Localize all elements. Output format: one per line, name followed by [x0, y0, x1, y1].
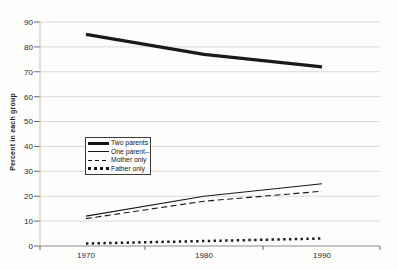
legend-swatch-dashed-line: [88, 160, 109, 161]
plot-area: [0, 0, 398, 270]
y-tick-label-90: 90: [8, 18, 33, 27]
y-tick-label-70: 70: [8, 68, 33, 77]
y-tick-label-80: 80: [8, 43, 33, 52]
y-axis-title: Percent in each group: [9, 92, 19, 172]
legend-label: Mother only: [111, 156, 147, 164]
y-tick-label-30: 30: [8, 167, 33, 176]
y-tick-label-20: 20: [8, 192, 33, 201]
y-tick-label-0: 0: [8, 242, 33, 251]
legend-swatch-dotted-line: [88, 167, 109, 170]
y-tick-label-40: 40: [8, 142, 33, 151]
legend-label: Two parents: [111, 139, 148, 147]
y-tick-label-60: 60: [8, 93, 33, 102]
legend-label: Father only: [111, 165, 145, 173]
legend-item-two-parents: Two parents: [88, 139, 148, 147]
x-tick-label-1990: 1990: [292, 251, 352, 261]
legend-item-father-only: Father only: [88, 165, 148, 173]
x-tick-label-1980: 1980: [174, 251, 234, 261]
y-tick-label-50: 50: [8, 117, 33, 126]
legend-item-one-parent: One parent--: [88, 148, 148, 156]
x-tick-label-1970: 1970: [56, 251, 116, 261]
legend-label: One parent--: [111, 148, 150, 156]
legend-item-mother-only: Mother only: [88, 156, 148, 164]
y-tick-label-10: 10: [8, 217, 33, 226]
chart-figure: Percent in each group 90 80 70 60 50 40 …: [0, 0, 398, 270]
legend-swatch-solid-thick-line: [88, 142, 109, 145]
legend: Two parents One parent-- Mother only Fat…: [85, 137, 151, 175]
legend-swatch-solid-thin-line: [88, 151, 109, 152]
